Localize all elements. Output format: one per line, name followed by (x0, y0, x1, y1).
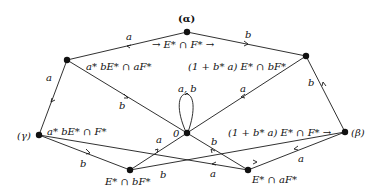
node-bottom-right (245, 167, 251, 173)
state-alpha: → E* ∩ F* → (152, 39, 215, 50)
edge-tr-beta (306, 56, 345, 132)
label-gamma: (γ) (17, 130, 31, 141)
edge-label-bl-beta: b (160, 169, 166, 180)
state-bottom-right: E* ∩ aF* (251, 174, 297, 185)
state-beta: (1 + b* a) E* ∩ F* → (228, 127, 332, 138)
edge-label-tr-beta: b (308, 77, 314, 88)
edge-label-tl-zero: b (119, 100, 125, 111)
label-beta: (β) (351, 127, 365, 138)
node-zero (184, 130, 190, 136)
edge-label-gamma-bl: b (80, 158, 86, 169)
node-top-right (303, 53, 309, 59)
edge-tl-gamma (39, 60, 67, 135)
edge-label-beta-br: a (298, 153, 304, 164)
state-top-right: (1 + b* a) E* ∩ bF* (188, 61, 286, 72)
state-gamma: a* bE* ∩ F* (47, 126, 107, 137)
state-bottom-left: E* ∩ bF* (104, 176, 150, 187)
edge-label-tr-zero: a (240, 83, 246, 94)
edge-label-alpha-tl: a (126, 31, 132, 42)
state-top-left: a* bE* ∩ aF* (86, 61, 151, 72)
edge-zero-loop (179, 94, 193, 132)
edge-label-br-gamma: a (210, 168, 216, 179)
label-zero: 0 (173, 128, 180, 139)
edge-label-tl-gamma: a (46, 72, 52, 83)
edge-label-br-zero: b (211, 136, 217, 147)
node-gamma (36, 132, 42, 138)
edge-label-bl-zero: a (156, 134, 162, 145)
edge-label-zero-loop: a, b (178, 83, 197, 94)
arrowheads (51, 41, 326, 165)
node-alpha (184, 29, 190, 35)
automaton-diagram: (α) → E* ∩ F* → a* bE* ∩ aF* (1 + b* a) … (0, 0, 384, 196)
node-beta (342, 129, 348, 135)
edge-label-alpha-tr: b (245, 29, 251, 40)
node-top-left (64, 57, 70, 63)
node-bottom-left (127, 167, 133, 173)
label-alpha: (α) (178, 13, 195, 24)
